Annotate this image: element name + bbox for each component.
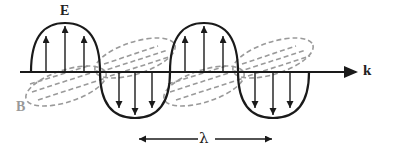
electric-field-vectors	[46, 26, 290, 115]
wavelength-label: λ	[199, 129, 209, 147]
e-field-label: E	[60, 3, 69, 19]
wave-figure	[0, 0, 393, 156]
b-field-label: B	[16, 99, 25, 115]
em-wave-diagram: E B k λ	[0, 0, 393, 156]
k-vector-label: k	[363, 62, 371, 79]
